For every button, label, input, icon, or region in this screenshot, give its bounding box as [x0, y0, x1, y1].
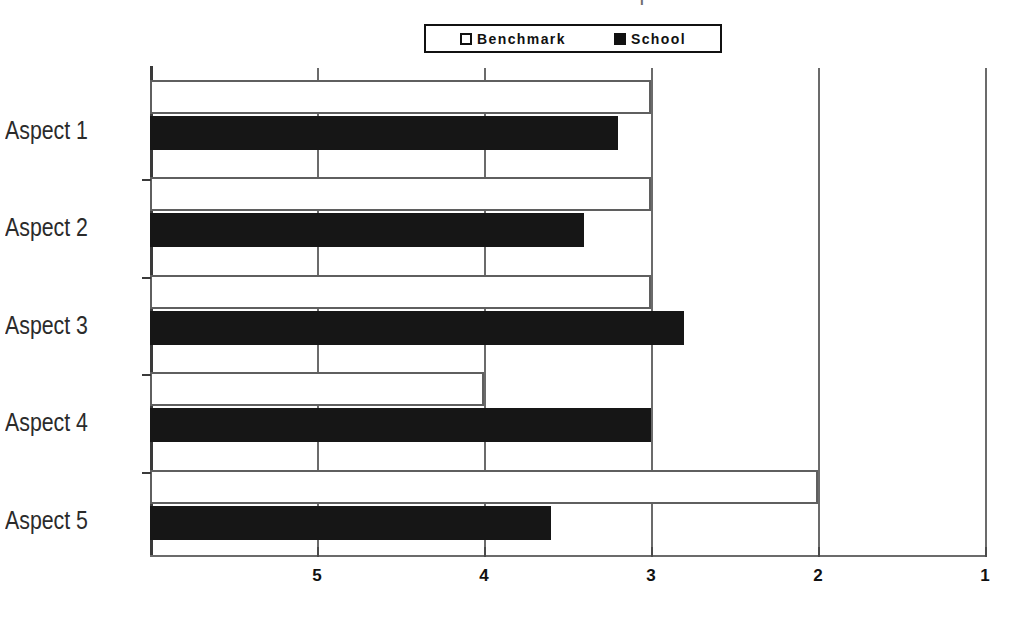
y-axis-category-label: Aspect 4: [5, 407, 120, 438]
x-axis-tick: [651, 547, 653, 557]
bar-benchmark: [150, 80, 651, 114]
bar-school: [150, 213, 584, 247]
bar-benchmark: [150, 275, 651, 309]
chart-title-remnant: ' |: [620, 0, 840, 5]
legend-label-benchmark: Benchmark: [477, 31, 566, 47]
legend-entry-benchmark: Benchmark: [460, 31, 566, 47]
x-axis-tick: [985, 547, 987, 557]
x-axis-tick-label: 5: [297, 566, 337, 586]
bar-school: [150, 506, 551, 540]
bar-chart: ' | Benchmark School 54321Aspect 1Aspect…: [0, 0, 1025, 623]
y-axis-tick: [142, 472, 151, 474]
y-axis-category-label: Aspect 1: [5, 115, 120, 146]
legend-entry-school: School: [614, 31, 686, 47]
x-axis-tick-label: 4: [464, 566, 504, 586]
y-axis-category-label: Aspect 5: [5, 505, 120, 536]
bar-school: [150, 408, 651, 442]
bar-school: [150, 311, 684, 345]
plot-area: [150, 68, 985, 555]
x-axis-tick: [818, 547, 820, 557]
bar-benchmark: [150, 470, 818, 504]
filled-square-icon: [614, 33, 626, 45]
bar-benchmark: [150, 372, 484, 406]
y-axis-tick: [142, 374, 151, 376]
y-axis-category-label: Aspect 2: [5, 212, 120, 243]
x-axis-tick-label: 1: [965, 566, 1005, 586]
x-axis-tick: [484, 547, 486, 557]
x-axis-tick: [317, 547, 319, 557]
bar-school: [150, 116, 618, 150]
bar-benchmark: [150, 177, 651, 211]
x-axis-tick-label: 2: [798, 566, 838, 586]
gridline: [818, 68, 820, 555]
hollow-square-icon: [460, 33, 472, 45]
y-axis-tick: [142, 277, 151, 279]
x-axis-tick-label: 3: [631, 566, 671, 586]
legend-label-school: School: [631, 31, 686, 47]
x-axis-line: [150, 555, 986, 557]
chart-legend: Benchmark School: [424, 24, 722, 53]
y-axis-tick: [142, 179, 151, 181]
gridline: [985, 68, 987, 555]
y-axis-category-label: Aspect 3: [5, 310, 120, 341]
